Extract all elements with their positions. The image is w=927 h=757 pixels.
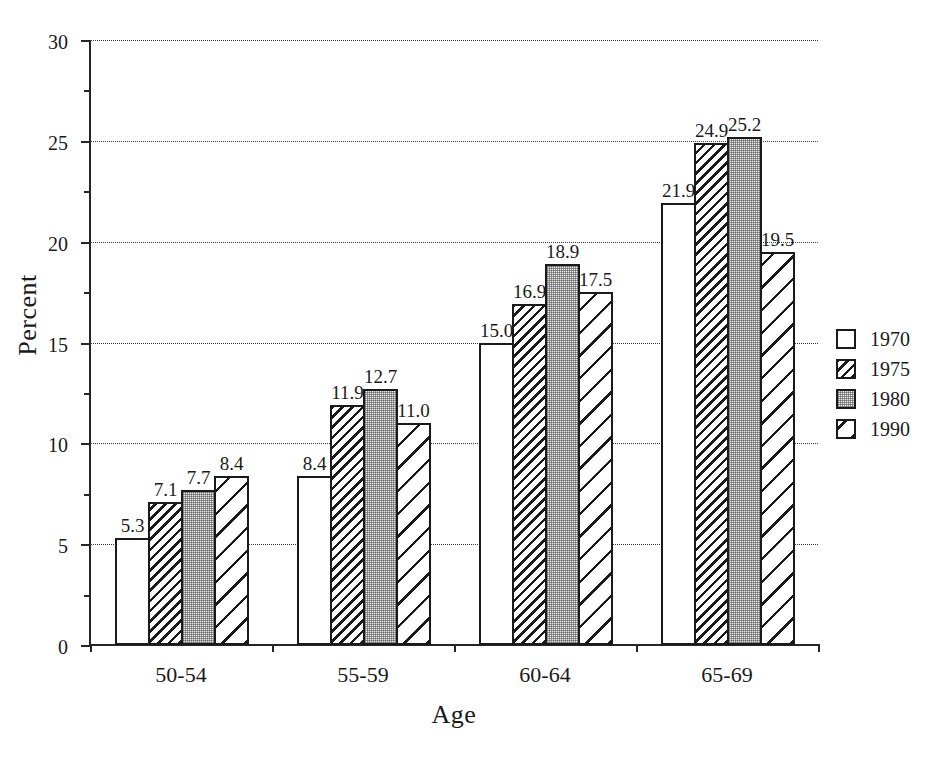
y-tick-minor [84,393,90,395]
legend-item: 1990 [836,416,910,442]
x-axis-label: Age [90,700,818,730]
bar-value-label: 8.4 [303,453,327,475]
x-tick [636,644,638,652]
bar: 21.9 [661,203,696,645]
legend-swatch [836,359,856,379]
legend-item: 1980 [836,386,910,412]
y-tick-major: 10 [81,443,90,445]
bar: 15.0 [479,343,514,646]
y-tick-label: 30 [48,31,68,54]
y-tick-label: 5 [58,535,68,558]
bar: 25.2 [727,137,762,645]
legend-item: 1975 [836,356,910,382]
plot-area: 051015202530 5.37.17.78.48.411.912.711.0… [90,40,818,645]
bar-value-label: 15.0 [480,320,513,342]
bar-value-label: 5.3 [121,515,145,537]
bar: 11.9 [330,405,365,645]
bar-chart: Percent 051015202530 5.37.17.78.48.411.9… [0,0,927,757]
legend: 1970197519801990 [836,326,910,446]
y-tick-minor [84,292,90,294]
bar-value-label: 7.7 [187,467,211,489]
gridline [90,40,818,41]
legend-label: 1980 [870,388,910,411]
bar: 7.7 [181,490,216,645]
bar-value-label: 17.5 [579,269,612,291]
bar-value-label: 24.9 [695,120,728,142]
x-tick [272,644,274,652]
bar: 24.9 [694,143,729,645]
y-axis-label: Percent [13,235,43,395]
x-tick-label: 60-64 [519,662,570,688]
y-tick-major: 30 [81,40,90,42]
legend-swatch [836,329,856,349]
bar-value-label: 21.9 [662,180,695,202]
x-tick [90,644,92,652]
y-tick-label: 20 [48,232,68,255]
y-tick-major: 15 [81,343,90,345]
legend-label: 1975 [870,358,910,381]
legend-label: 1970 [870,328,910,351]
y-tick-label: 25 [48,131,68,154]
bar-value-label: 8.4 [220,453,244,475]
y-tick-minor [84,595,90,597]
bar-value-label: 7.1 [154,479,178,501]
x-tick [454,644,456,652]
bar: 19.5 [760,252,795,645]
bar: 8.4 [297,476,332,645]
legend-label: 1990 [870,418,910,441]
y-tick-label: 15 [48,333,68,356]
bar: 5.3 [115,538,150,645]
bar: 8.4 [214,476,249,645]
y-tick-label: 0 [58,636,68,659]
y-tick-minor [84,494,90,496]
bar: 18.9 [545,264,580,645]
bar: 7.1 [148,502,183,645]
legend-swatch [836,419,856,439]
bar-value-label: 11.9 [331,382,364,404]
bar-value-label: 11.0 [397,400,430,422]
bar: 12.7 [363,389,398,645]
y-tick-major: 0 [81,645,90,647]
y-tick-major: 20 [81,242,90,244]
x-tick-label: 65-69 [701,662,752,688]
bar: 17.5 [578,292,613,645]
bar: 16.9 [512,304,547,645]
y-tick-major: 25 [81,141,90,143]
bar-value-label: 16.9 [513,281,546,303]
bar-value-label: 18.9 [546,241,579,263]
y-tick-minor [84,90,90,92]
legend-item: 1970 [836,326,910,352]
bar: 11.0 [396,423,431,645]
x-tick [818,644,820,652]
y-tick-minor [84,191,90,193]
y-tick-label: 10 [48,434,68,457]
bar-value-label: 19.5 [761,229,794,251]
x-tick-label: 50-54 [155,662,206,688]
y-tick-major: 5 [81,544,90,546]
x-tick-label: 55-59 [337,662,388,688]
bar-value-label: 25.2 [728,114,761,136]
bar-value-label: 12.7 [364,366,397,388]
legend-swatch [836,389,856,409]
